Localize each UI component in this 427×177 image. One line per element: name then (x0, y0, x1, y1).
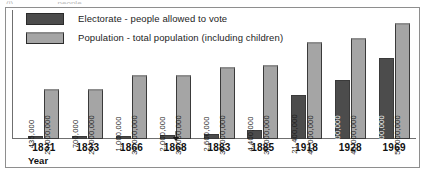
x-tick-label: 1866 (110, 142, 154, 153)
x-tick-label: 1918 (285, 142, 329, 153)
bar-electorate: 39,000,000 (379, 58, 394, 139)
bar-electorate: 700,000 (72, 136, 87, 139)
bar-group: 39,000,00056,000,000 (372, 10, 416, 139)
bar-groups: 435,00024,000,000700,00024,000,0001,000,… (22, 10, 416, 139)
x-axis-tick-labels: 183118331866186818831885191819281969 (22, 142, 416, 153)
x-tick-label: 1928 (328, 142, 372, 153)
x-tick-label: 1883 (197, 142, 241, 153)
x-axis-title: Year (28, 155, 48, 166)
bar-population: 36,000,000 (263, 65, 278, 139)
bar-electorate: 4,400,000 (247, 130, 262, 139)
bar-population: 31,000,000 (176, 75, 191, 139)
x-tick-label: 1831 (22, 142, 66, 153)
bar-chart-figure: (i) .................. people ..........… (0, 0, 427, 177)
clipped-top-text: (i) .................. people ..........… (6, 0, 416, 4)
bar-electorate: 28,800,000 (335, 80, 350, 139)
bar-group: 2,000,00031,000,000 (153, 10, 197, 139)
bar-group: 435,00024,000,000 (22, 10, 66, 139)
y-axis-line (12, 10, 13, 139)
bar-population: 49,000,000 (351, 38, 366, 139)
x-tick-label: 1868 (153, 142, 197, 153)
bar-group: 1,000,00031,000,000 (110, 10, 154, 139)
bar-population: 24,000,000 (44, 89, 59, 139)
bar-population: 47,000,000 (307, 42, 322, 139)
pointer-artifact (173, 131, 179, 141)
bar-group: 700,00024,000,000 (66, 10, 110, 139)
bar-group: 2,600,00035,000,000 (197, 10, 241, 139)
plot-area: 435,00024,000,000700,00024,000,0001,000,… (12, 10, 416, 139)
x-tick-label: 1833 (66, 142, 110, 153)
bar-group: 28,800,00049,000,000 (328, 10, 372, 139)
x-tick-label: 1969 (372, 142, 416, 153)
bar-electorate: 435,000 (28, 136, 43, 139)
bar-population: 31,000,000 (132, 75, 147, 139)
bar-population: 24,000,000 (88, 89, 103, 139)
bar-population: 56,000,000 (395, 23, 410, 139)
bar-group: 4,400,00036,000,000 (241, 10, 285, 139)
bar-group: 21,400,00047,000,000 (285, 10, 329, 139)
bar-population: 35,000,000 (220, 67, 235, 139)
bar-electorate: 21,400,000 (291, 95, 306, 139)
bar-electorate: 2,600,000 (204, 134, 219, 139)
x-tick-label: 1885 (241, 142, 285, 153)
bar-electorate: 1,000,000 (116, 136, 131, 139)
